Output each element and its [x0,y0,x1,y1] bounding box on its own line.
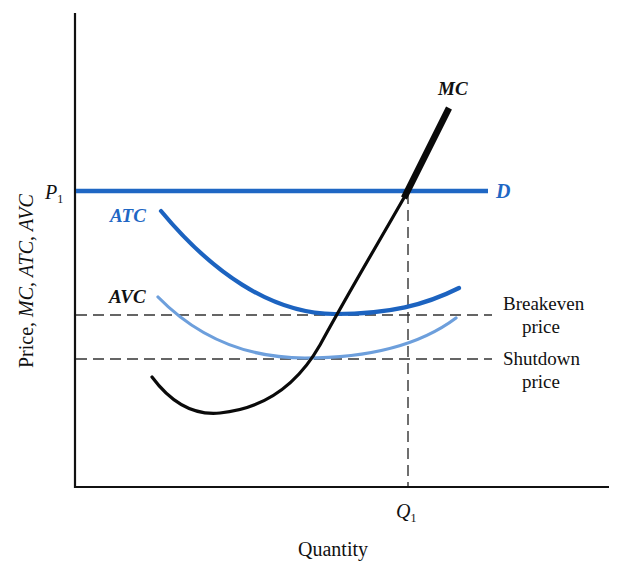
breakeven-label-line1: Breakeven [503,293,585,314]
q1-letter: Q [396,500,411,522]
shutdown-label-line2: price [522,371,560,392]
q1-label: Q1 [396,500,416,525]
mc-label: MC [437,78,468,99]
mc-curve-upper [404,108,449,198]
q1-subscript: 1 [410,511,416,525]
breakeven-label-line2: price [522,316,560,337]
x-axis-title: Quantity [298,538,368,561]
p1-label: P1 [44,181,63,206]
atc-label: ATC [109,205,146,226]
avc-label: AVC [108,286,146,307]
y-axis-title: Price, MC, ATC, AVC [15,194,37,368]
shutdown-label-line1: Shutdown [503,348,581,369]
atc-curve [161,211,459,314]
diagram-canvas: MC D ATC AVC P1 Q1 Breakeven price Shutd… [0,0,622,569]
p1-letter: P [44,181,57,203]
p1-subscript: 1 [57,192,63,206]
demand-label: D [495,180,510,202]
